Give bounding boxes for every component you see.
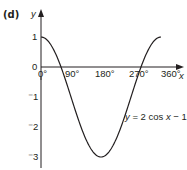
y-tick-minus-3: ⁻3 [28,151,38,162]
curve-equation-label: y = 2 cos x − 1 [124,111,187,122]
x-tick-0: 0° [38,68,47,79]
cosine-curve [41,37,161,157]
x-tick-360: 360° [161,68,181,79]
y-tick-minus-1: ⁻1 [28,91,38,102]
y-axis-label: y [30,8,37,19]
y-tick-1: 1 [32,31,37,42]
cosine-graph: (d) y x 0 1 ⁻1 ⁻2 ⁻3 0° 90° 180° 270° 36… [0,0,187,170]
y-axis-arrow-icon [38,9,44,17]
x-tick-180: 180° [95,68,115,79]
origin-label: 0 [32,61,37,72]
y-tick-minus-2: ⁻2 [28,121,38,132]
part-label: (d) [3,9,19,20]
x-tick-90: 90° [65,68,80,79]
